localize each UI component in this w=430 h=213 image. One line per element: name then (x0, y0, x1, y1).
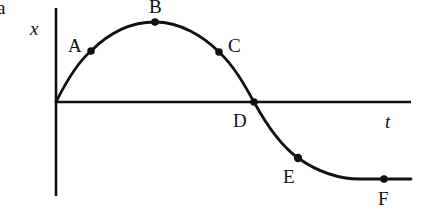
point-c-label: C (228, 35, 241, 56)
point-b-label: B (149, 0, 162, 17)
point-d-label: D (233, 110, 247, 131)
point-a-label: A (68, 35, 82, 56)
position-time-graph: a x t A B C D E F (0, 0, 430, 213)
y-axis-label: x (29, 18, 39, 39)
point-e-label: E (283, 166, 295, 187)
panel-label: a (0, 0, 6, 18)
point-f-label: F (378, 188, 389, 209)
point-e-dot (294, 154, 302, 162)
point-d-dot (250, 98, 258, 106)
x-axis-label: t (385, 111, 391, 132)
point-b-dot (151, 18, 159, 26)
point-c-dot (215, 48, 223, 56)
point-a-dot (87, 47, 95, 55)
point-f-dot (380, 175, 388, 183)
